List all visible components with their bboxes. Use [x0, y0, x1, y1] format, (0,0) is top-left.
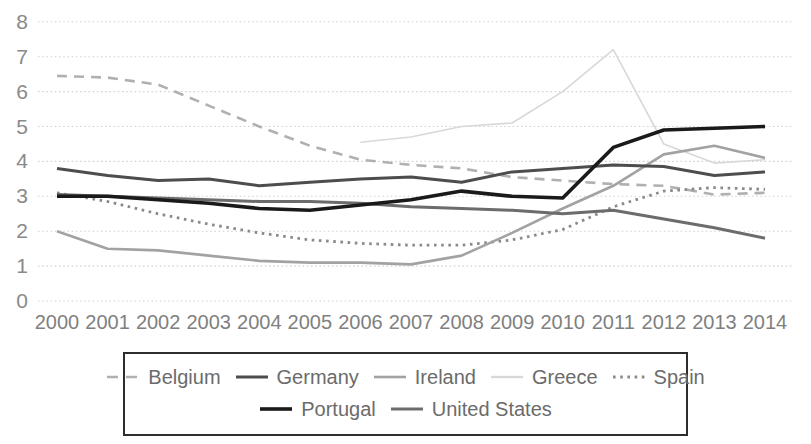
legend-label-portugal: Portugal	[301, 398, 376, 421]
series-line-germany	[57, 165, 765, 186]
legend-label-spain: Spain	[654, 366, 705, 389]
legend-swatch-belgium	[106, 373, 140, 381]
chart-legend: BelgiumGermanyIrelandGreeceSpainPortugal…	[123, 352, 688, 436]
x-axis-tick-label: 2008	[439, 311, 484, 333]
legend-swatch-united-states	[390, 405, 424, 413]
legend-item-belgium: Belgium	[106, 366, 220, 389]
legend-label-united-states: United States	[432, 398, 552, 421]
x-axis-tick-label: 2005	[288, 311, 333, 333]
x-axis-tick-label: 2009	[490, 311, 535, 333]
y-axis-tick-label: 2	[16, 219, 28, 242]
x-axis-tick-label: 2003	[186, 311, 231, 333]
y-axis-tick-label: 6	[16, 80, 28, 103]
legend-row: BelgiumGermanyIrelandGreeceSpain	[135, 361, 676, 393]
x-axis-tick-label: 2006	[338, 311, 383, 333]
legend-row: PortugalUnited States	[135, 393, 676, 425]
x-axis-tick-label: 2002	[136, 311, 181, 333]
legend-item-germany: Germany	[235, 366, 359, 389]
x-axis-tick-label: 2011	[592, 311, 635, 333]
y-axis-tick-label: 7	[16, 45, 28, 68]
chart-page: 0123456782000200120022003200420052006200…	[0, 0, 811, 444]
legend-swatch-germany	[235, 373, 269, 381]
x-axis-tick-label: 2012	[642, 311, 687, 333]
y-axis-tick-label: 3	[16, 184, 28, 207]
x-axis-tick-label: 2000	[35, 311, 80, 333]
y-axis-tick-label: 8	[16, 10, 28, 33]
x-axis-tick-label: 2013	[692, 311, 737, 333]
legend-label-greece: Greece	[532, 366, 598, 389]
x-axis-tick-label: 2001	[85, 311, 130, 333]
legend-item-portugal: Portugal	[259, 398, 376, 421]
y-axis-tick-label: 1	[16, 254, 28, 277]
y-axis-tick-label: 5	[16, 115, 28, 138]
x-axis-tick-label: 2010	[540, 311, 585, 333]
legend-swatch-greece	[490, 373, 524, 381]
legend-item-spain: Spain	[612, 366, 705, 389]
x-axis-tick-label: 2004	[237, 311, 282, 333]
x-axis-tick-label: 2014	[743, 311, 788, 333]
legend-swatch-portugal	[259, 405, 293, 413]
series-line-ireland	[57, 146, 765, 265]
series-line-greece	[360, 50, 765, 163]
line-chart: 0123456782000200120022003200420052006200…	[0, 2, 811, 342]
legend-label-belgium: Belgium	[148, 366, 220, 389]
series-line-spain	[57, 188, 765, 246]
y-axis-tick-label: 4	[16, 149, 28, 172]
y-axis-tick-label: 0	[16, 289, 28, 312]
legend-item-greece: Greece	[490, 366, 598, 389]
x-axis-tick-label: 2007	[389, 311, 434, 333]
legend-item-united-states: United States	[390, 398, 552, 421]
legend-item-ireland: Ireland	[373, 366, 476, 389]
legend-swatch-ireland	[373, 373, 407, 381]
legend-label-ireland: Ireland	[415, 366, 476, 389]
legend-swatch-spain	[612, 373, 646, 381]
legend-label-germany: Germany	[277, 366, 359, 389]
